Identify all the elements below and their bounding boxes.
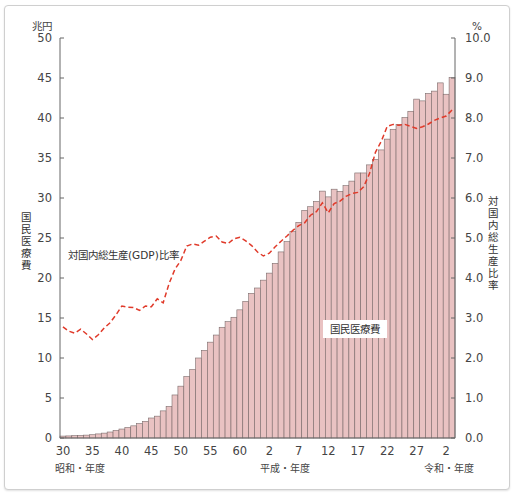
bar [119, 429, 125, 438]
bar [172, 395, 178, 438]
bar [378, 150, 384, 438]
bar [190, 370, 196, 438]
right-tick-label: 9.0 [465, 71, 483, 85]
bar [319, 191, 325, 438]
x-tick-label: 7 [295, 444, 302, 458]
x-tick-label: 40 [115, 444, 130, 458]
right-unit-label: % [472, 20, 482, 32]
x-tick-label: 12 [321, 444, 336, 458]
era-label-showa: 昭和・年度 [55, 462, 105, 474]
left-tick-label: 20 [37, 271, 52, 285]
bar [390, 129, 396, 438]
bar [314, 201, 320, 438]
bar [449, 78, 455, 438]
bar [337, 191, 343, 438]
x-tick-label: 45 [144, 444, 159, 458]
x-tick-label: 50 [174, 444, 189, 458]
left-tick-label: 50 [37, 31, 52, 45]
x-tick-label: 35 [85, 444, 100, 458]
bar [125, 428, 131, 438]
bar [213, 335, 219, 438]
bar [201, 350, 207, 438]
right-tick-label: 3.0 [465, 311, 483, 325]
x-tick-label: 55 [203, 444, 218, 458]
era-label-reiwa: 令和・年度 [424, 462, 474, 474]
left-tick-label: 25 [37, 231, 52, 245]
bar [331, 189, 337, 438]
bar [237, 310, 243, 438]
bar [372, 160, 378, 438]
left-tick-label: 15 [37, 311, 52, 325]
bar [160, 411, 166, 438]
left-tick-label: 0 [45, 431, 52, 445]
bar [178, 386, 184, 438]
bar [255, 288, 261, 438]
x-tick-label: 30 [56, 444, 71, 458]
bar [196, 358, 202, 438]
x-tick-label: 2 [442, 444, 449, 458]
left-tick-label: 40 [37, 111, 52, 125]
right-tick-label: 1.0 [465, 391, 483, 405]
left-tick-label: 45 [37, 71, 52, 85]
bar-annotation: 国民医療費 [330, 323, 380, 335]
right-tick-label: 8.0 [465, 111, 483, 125]
right-axis-title: 対国内総生産比率 [485, 196, 500, 292]
bar [325, 197, 331, 438]
bar [137, 424, 143, 438]
bar [431, 91, 437, 438]
bar [402, 118, 408, 438]
bar [272, 263, 278, 438]
bar [266, 273, 272, 438]
right-tick-label: 4.0 [465, 271, 483, 285]
bar [184, 377, 190, 438]
bar [101, 433, 107, 438]
bar [131, 426, 137, 438]
bar [166, 406, 172, 438]
x-tick-label: 2 [266, 444, 273, 458]
right-tick-label: 7.0 [465, 151, 483, 165]
right-tick-label: 10.0 [465, 31, 491, 45]
bar [148, 418, 154, 438]
bar [154, 416, 160, 438]
x-tick-label: 22 [380, 444, 395, 458]
bar [349, 181, 355, 438]
medical-expenditure-chart: 051015202530354045500.01.02.03.04.05.06.… [0, 0, 514, 496]
bar [384, 139, 390, 438]
bar [290, 232, 296, 438]
x-tick-label: 60 [232, 444, 247, 458]
left-unit-label: 兆円 [32, 20, 52, 32]
bar [355, 173, 361, 438]
bar [296, 222, 302, 438]
left-tick-label: 5 [45, 391, 52, 405]
x-tick-label: 27 [409, 444, 424, 458]
bar [225, 322, 231, 438]
bar [107, 432, 113, 438]
left-axis-title: 国民医療費 [18, 212, 33, 272]
left-tick-label: 35 [37, 151, 52, 165]
right-tick-label: 6.0 [465, 191, 483, 205]
bar [420, 101, 426, 438]
right-tick-label: 5.0 [465, 231, 483, 245]
bar [426, 93, 432, 438]
bar [302, 210, 308, 438]
line-annotation: 対国内総生産(GDP)比率 [68, 249, 179, 261]
bar [143, 421, 149, 438]
bar [95, 434, 101, 438]
bar [207, 342, 213, 438]
bar [414, 99, 420, 438]
bar [367, 165, 373, 438]
left-tick-label: 30 [37, 191, 52, 205]
era-label-heisei: 平成・年度 [260, 462, 310, 474]
bar [308, 207, 314, 438]
bar [231, 317, 237, 438]
bar [278, 252, 284, 438]
right-tick-label: 0.0 [465, 431, 483, 445]
bar [408, 111, 414, 438]
bar [396, 124, 402, 438]
right-tick-label: 2.0 [465, 351, 483, 365]
bar [343, 186, 349, 438]
left-tick-label: 10 [37, 351, 52, 365]
bar [219, 327, 225, 438]
x-tick-label: 17 [350, 444, 365, 458]
bar [443, 94, 449, 438]
